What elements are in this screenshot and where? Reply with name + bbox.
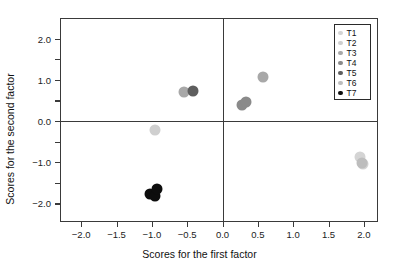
legend-item-label: T1 (347, 28, 357, 38)
x-axis-tick (258, 222, 259, 227)
y-axis-label: Scores for the second factor (1, 0, 19, 278)
vertical-zero-reference-line (223, 18, 224, 222)
legend-item-label: T3 (347, 48, 357, 58)
legend: T1T2T3T4T5T6T7 (334, 24, 371, 100)
x-axis-tick-label: 1.5 (322, 229, 335, 240)
legend-item-t4[interactable]: T4 (338, 58, 370, 68)
data-point (356, 158, 367, 169)
legend-item-label: T5 (347, 68, 357, 78)
y-axis-label-text: Scores for the second factor (4, 73, 16, 204)
x-axis-tick (223, 222, 224, 227)
y-axis-tick (55, 162, 60, 163)
y-axis-tick (55, 121, 60, 122)
legend-item-t3[interactable]: T3 (338, 48, 370, 58)
x-axis-tick (81, 222, 82, 227)
x-axis-tick-label: 0.0 (216, 229, 229, 240)
legend-item-label: T7 (347, 88, 357, 98)
x-axis-label: Scores for the first factor (0, 248, 399, 260)
y-axis-tick-label: −1.0 (32, 157, 51, 168)
x-axis-tick (117, 222, 118, 227)
y-axis-minor-tick (55, 142, 60, 143)
legend-marker-icon (338, 81, 343, 86)
data-point (150, 125, 161, 136)
legend-item-t1[interactable]: T1 (338, 28, 370, 38)
y-axis-tick-label: 1.0 (38, 74, 51, 85)
y-axis-minor-tick (55, 100, 60, 101)
x-axis-tick-label: 1.0 (287, 229, 300, 240)
legend-item-t2[interactable]: T2 (338, 38, 370, 48)
data-point (257, 71, 268, 82)
legend-item-label: T6 (347, 78, 357, 88)
legend-item-label: T4 (347, 58, 357, 68)
y-axis-tick (55, 80, 60, 81)
x-axis-tick-label: −0.5 (178, 229, 197, 240)
x-axis-tick (329, 222, 330, 227)
legend-marker-icon (338, 31, 343, 36)
y-axis-tick-label: 0.0 (38, 116, 51, 127)
x-axis-tick (187, 222, 188, 227)
y-axis-minor-tick (55, 183, 60, 184)
legend-marker-icon (338, 71, 343, 76)
plot-area (60, 18, 378, 222)
legend-marker-icon (338, 91, 343, 96)
x-axis-tick-label: −1.0 (142, 229, 161, 240)
x-axis-tick-label: −2.0 (72, 229, 91, 240)
x-axis-tick (364, 222, 365, 227)
legend-item-t6[interactable]: T6 (338, 78, 370, 88)
x-axis-tick-label: 2.0 (357, 229, 370, 240)
horizontal-zero-reference-line (60, 121, 378, 122)
y-axis-tick (55, 39, 60, 40)
legend-marker-icon (338, 61, 343, 66)
legend-item-t5[interactable]: T5 (338, 68, 370, 78)
y-axis-tick-label: 2.0 (38, 33, 51, 44)
x-axis-tick (152, 222, 153, 227)
data-point (187, 85, 198, 96)
legend-marker-icon (338, 51, 343, 56)
x-axis-tick-label: 0.5 (251, 229, 264, 240)
legend-marker-icon (338, 41, 343, 46)
data-point (240, 97, 251, 108)
y-axis-tick (55, 203, 60, 204)
x-axis-tick (293, 222, 294, 227)
legend-item-t7[interactable]: T7 (338, 88, 370, 98)
data-point (151, 184, 162, 195)
scatter-plot-figure: −2.0−1.5−1.0−0.50.00.51.01.52.02.01.00.0… (0, 0, 399, 278)
legend-item-label: T2 (347, 38, 357, 48)
y-axis-minor-tick (55, 59, 60, 60)
x-axis-tick-label: −1.5 (107, 229, 126, 240)
y-axis-tick-label: −2.0 (32, 198, 51, 209)
